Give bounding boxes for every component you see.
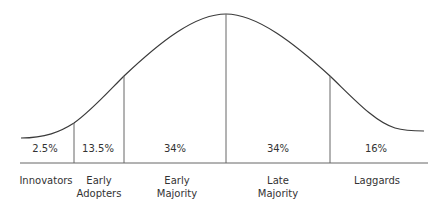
percent-innovators: 2.5% — [32, 143, 57, 154]
bell-curve — [21, 14, 424, 138]
label-late-majority: Late Majority — [258, 174, 298, 200]
label-laggards: Laggards — [354, 174, 400, 187]
label-early-majority: Early Majority — [157, 174, 197, 200]
percent-laggards: 16% — [365, 143, 387, 154]
percent-early-adopters: 13.5% — [82, 143, 114, 154]
label-early-adopters: Early Adopters — [77, 174, 122, 200]
percent-early-majority: 34% — [164, 143, 186, 154]
percent-late-majority: 34% — [267, 143, 289, 154]
label-innovators: Innovators — [19, 174, 72, 187]
